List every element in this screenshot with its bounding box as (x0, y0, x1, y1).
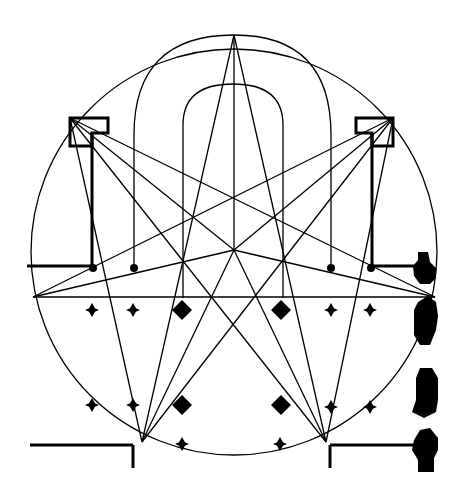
outer-arch (134, 35, 331, 268)
dot-markers (89, 264, 375, 272)
wall-right-lower (330, 445, 415, 468)
diagram-canvas (0, 0, 456, 498)
wall-left-lower (30, 445, 133, 468)
large-diamond-markers (172, 300, 291, 415)
speaker-right (356, 118, 393, 268)
speaker-left (70, 118, 108, 268)
inner-arch (183, 84, 283, 298)
